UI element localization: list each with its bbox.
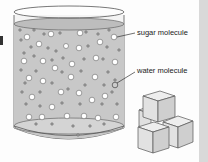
sugar-cubes — [138, 91, 193, 153]
sugar-molecule-label: sugar molecule — [137, 28, 188, 37]
water-molecule-label: water molecule — [137, 66, 187, 75]
beaker-diagram — [0, 0, 208, 162]
water-molecule-example — [112, 82, 118, 88]
